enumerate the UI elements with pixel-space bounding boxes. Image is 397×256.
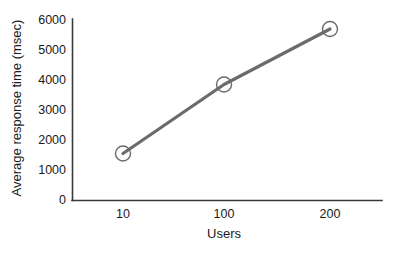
line-chart: Average response time (msec) 6000 5000 4… xyxy=(0,0,397,256)
x-tick-label-100: 100 xyxy=(214,207,235,221)
y-tick-label-4000: 4000 xyxy=(38,73,66,87)
y-tick-label-2000: 2000 xyxy=(38,133,66,147)
y-tick-label-6000: 6000 xyxy=(38,13,66,27)
x-tick-label-10: 10 xyxy=(116,207,130,221)
x-tick-label-200: 200 xyxy=(320,207,341,221)
x-axis-title: Users xyxy=(207,226,241,241)
chart-container: Average response time (msec) 6000 5000 4… xyxy=(0,0,397,256)
y-tick-label-3000: 3000 xyxy=(38,103,66,117)
y-axis-title: Average response time (msec) xyxy=(9,20,24,197)
y-tick-label-5000: 5000 xyxy=(38,43,66,57)
y-tick-label-1000: 1000 xyxy=(38,163,66,177)
y-tick-label-0: 0 xyxy=(59,193,66,207)
